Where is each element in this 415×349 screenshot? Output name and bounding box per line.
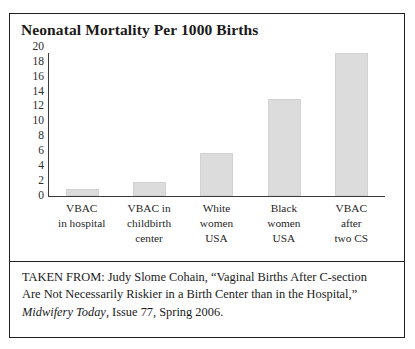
y-tick-label: 16 — [10, 71, 44, 83]
bar[interactable] — [335, 53, 368, 196]
y-axis-tick-labels: 02468101214161820 — [10, 47, 44, 196]
x-category-label: BlackwomenUSA — [250, 201, 317, 246]
y-tick-label: 18 — [10, 56, 44, 68]
bar-slot — [318, 53, 385, 196]
x-category-label: VBAC inchildbirthcenter — [115, 201, 182, 246]
bar-slot — [116, 53, 183, 196]
x-category-label: WhitewomenUSA — [183, 201, 250, 246]
source-caption: TAKEN FROM: Judy Slome Cohain, “Vaginal … — [10, 262, 404, 322]
chart-title: Neonatal Mortality Per 1000 Births — [10, 14, 404, 39]
caption-line-1: TAKEN FROM: Judy Slome Cohain, “Vaginal … — [22, 269, 392, 287]
y-tick-label: 20 — [10, 41, 44, 53]
bar-slot — [49, 53, 116, 196]
journal-name: Midwifery Today — [22, 305, 106, 319]
bar[interactable] — [200, 153, 233, 196]
y-tick-label: 12 — [10, 101, 44, 113]
bar[interactable] — [133, 182, 166, 196]
y-tick-label: 6 — [10, 145, 44, 157]
chart-area: 02468101214161820 VBACin hospitalVBAC in… — [10, 43, 404, 261]
caption-line-3-rest: , Issue 77, Spring 2006. — [106, 305, 223, 319]
plot-region — [48, 53, 385, 197]
bar-series — [49, 53, 385, 196]
figure-container: Neonatal Mortality Per 1000 Births 02468… — [9, 13, 405, 338]
caption-line-3: Midwifery Today, Issue 77, Spring 2006. — [22, 304, 392, 322]
y-tick-label: 4 — [10, 160, 44, 172]
bar-slot — [251, 53, 318, 196]
caption-line-2: Are Not Necessarily Riskier in a Birth C… — [22, 286, 392, 304]
bar[interactable] — [268, 99, 301, 196]
y-tick-label: 10 — [10, 116, 44, 128]
y-tick-label: 8 — [10, 130, 44, 142]
y-tick-label: 14 — [10, 86, 44, 98]
bar[interactable] — [66, 189, 99, 196]
x-axis-category-labels: VBACin hospitalVBAC inchildbirthcenterWh… — [48, 201, 385, 246]
x-category-label: VBACaftertwo CS — [318, 201, 385, 246]
y-tick-label: 0 — [10, 190, 44, 202]
bar-slot — [183, 53, 250, 196]
y-tick-label: 2 — [10, 175, 44, 187]
x-category-label: VBACin hospital — [48, 201, 115, 246]
